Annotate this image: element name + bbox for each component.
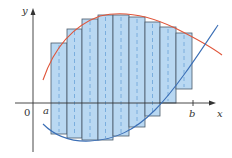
a-label: a (43, 105, 49, 116)
b-label: b (189, 108, 195, 119)
x-axis-label: x (217, 108, 223, 119)
origin-label: 0 (24, 107, 30, 118)
rectangles-group (51, 15, 192, 140)
x-axis-arrow-icon (209, 101, 216, 106)
riemann-area-between-curves-diagram: y x 0 a b (0, 0, 232, 158)
y-axis-arrow-icon (31, 8, 36, 15)
y-axis-label: y (21, 5, 28, 16)
